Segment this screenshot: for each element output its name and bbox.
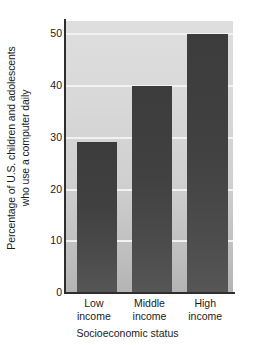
x-category-high-income-line-1: High — [194, 297, 216, 309]
x-category-high-income-line-2: income — [177, 310, 233, 323]
y-axis-ticks: 50 40 30 20 10 0 — [36, 0, 62, 345]
x-axis-title: Socioeconomic status — [0, 327, 255, 339]
x-axis-line — [64, 292, 235, 294]
y-tick-label-50: 50 — [36, 28, 62, 38]
bar-high-income — [187, 34, 228, 292]
y-tick-label-30: 30 — [36, 132, 62, 142]
y-axis-line — [64, 19, 66, 294]
x-category-high-income: High income — [177, 297, 233, 329]
y-tick-label-0: 0 — [36, 287, 62, 297]
x-axis-category-labels: Low income Middle income High income — [66, 297, 233, 329]
y-tick-label-40: 40 — [36, 80, 62, 90]
y-axis-label-line-2: who use a computer daily — [18, 90, 32, 207]
x-category-middle-income-line-2: income — [122, 310, 178, 323]
bar-low-income — [77, 142, 117, 292]
y-tick-label-10: 10 — [36, 235, 62, 245]
plot-area — [66, 21, 233, 292]
y-axis-label-line-1: Percentage of U.S. children and adolesce… — [4, 46, 18, 250]
y-tick-label-20: 20 — [36, 184, 62, 194]
x-category-low-income: Low income — [66, 297, 122, 329]
y-axis-label: Percentage of U.S. children and adolesce… — [0, 0, 38, 300]
x-category-middle-income: Middle income — [122, 297, 178, 329]
bar-chart-figure: Percentage of U.S. children and adolesce… — [0, 0, 255, 345]
bar-middle-income — [132, 86, 172, 292]
x-category-middle-income-line-1: Middle — [134, 297, 165, 309]
x-category-low-income-line-2: income — [66, 310, 122, 323]
x-category-low-income-line-1: Low — [84, 297, 103, 309]
